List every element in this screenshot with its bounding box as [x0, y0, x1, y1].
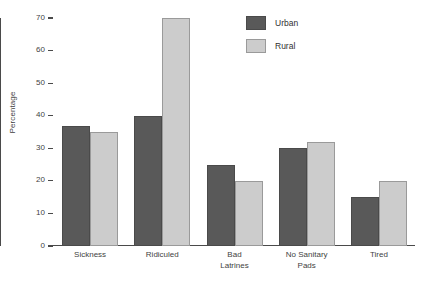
x-axis-label-sickness: Sickness: [54, 250, 126, 261]
bar-group: [134, 18, 190, 246]
y-tick-label: 10: [5, 209, 45, 217]
y-tick-mark: [48, 180, 53, 181]
legend-item-rural: Rural: [246, 39, 356, 53]
y-tick-mark: [48, 50, 53, 51]
y-tick-label: 70: [5, 14, 45, 22]
y-axis-line: [0, 18, 1, 246]
x-axis-label-bad-latrines: BadLatrines: [198, 250, 270, 271]
y-tick-mark: [48, 17, 53, 18]
bar-group: [351, 18, 407, 246]
y-tick-mark: [48, 83, 53, 84]
x-axis-labels: SicknessRidiculedBadLatrinesNo SanitaryP…: [54, 250, 415, 284]
x-axis-label-no-sanitary-pads: No SanitaryPads: [271, 250, 343, 271]
bar-rural-no-sanitary-pads: [307, 142, 335, 246]
y-tick-label: 0: [5, 242, 45, 250]
y-tick-mark: [48, 115, 53, 116]
bar-urban-no-sanitary-pads: [279, 148, 307, 246]
bar-urban-ridiculed: [134, 116, 162, 246]
y-tick-mark: [48, 213, 53, 214]
legend-item-urban: Urban: [246, 16, 356, 30]
legend-swatch-urban: [246, 16, 266, 30]
bars-layer: [54, 18, 415, 246]
bar-rural-ridiculed: [162, 18, 190, 246]
chart-legend: Urban Rural: [246, 16, 356, 62]
y-tick-label: 50: [5, 79, 45, 87]
bar-rural-sickness: [90, 132, 118, 246]
y-tick-mark: [48, 245, 53, 246]
cut-off-caption: [0, 284, 422, 290]
bar-urban-bad-latrines: [207, 165, 235, 246]
y-tick-mark: [48, 148, 53, 149]
bar-urban-sickness: [62, 126, 90, 247]
bar-group: [62, 18, 118, 246]
y-tick-label: 20: [5, 176, 45, 184]
x-axis-label-tired: Tired: [343, 250, 415, 261]
legend-swatch-rural: [246, 39, 266, 53]
legend-label-urban: Urban: [275, 18, 298, 28]
y-tick-label: 40: [5, 111, 45, 119]
x-axis-label-ridiculed: Ridiculed: [126, 250, 198, 261]
bar-rural-bad-latrines: [235, 181, 263, 246]
bar-rural-tired: [379, 181, 407, 246]
y-tick-label: 60: [5, 46, 45, 54]
y-tick-label: 30: [5, 144, 45, 152]
legend-label-rural: Rural: [275, 41, 295, 51]
bar-urban-tired: [351, 197, 379, 246]
bar-chart: Percentage 010203040506070 SicknessRidic…: [0, 0, 422, 290]
